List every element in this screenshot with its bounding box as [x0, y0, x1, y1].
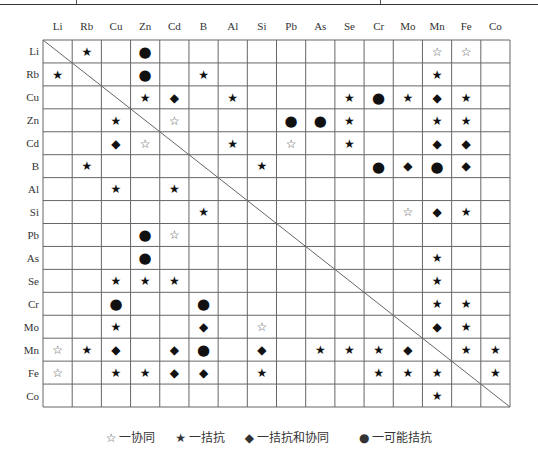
column-header-cu: Cu [110, 20, 123, 32]
row-header-cu: Cu [26, 91, 39, 103]
legend-item-antagonism: ★一拮抗 [175, 428, 225, 445]
row-header-mn: Mn [24, 344, 40, 356]
antagonism-filled-star-icon: ★ [169, 274, 180, 288]
column-header-si: Si [257, 20, 266, 32]
antagonism-filled-star-icon: ★ [344, 343, 355, 357]
possible-antagonism-circle-icon: ● [139, 249, 152, 267]
row-header-b: B [32, 160, 39, 172]
antagonism-filled-star-icon: ★ [198, 205, 209, 219]
possible-antagonism-circle-icon: ● [197, 341, 210, 359]
possible-antagonism-circle-icon: ● [372, 89, 385, 107]
antagonism-filled-star-icon: ★ [402, 91, 413, 105]
antagonism-filled-star-icon: ★ [111, 320, 122, 334]
column-header-fe: Fe [461, 20, 472, 32]
column-header-rb: Rb [80, 20, 93, 32]
antagonism-filled-star-icon: ★ [111, 182, 122, 196]
antagonism-and-synergy-diamond-icon: ◆ [199, 366, 209, 380]
synergy-open-star-icon: ☆ [286, 137, 297, 151]
possible-antagonism-circle-icon: ● [359, 431, 369, 445]
legend: ☆一协同 ★一拮抗 ◆一拮抗和协同 ●一可能拮抗 [0, 428, 538, 445]
column-header-zn: Zn [139, 20, 152, 32]
row-header-si: Si [30, 206, 39, 218]
column-header-pb: Pb [285, 20, 297, 32]
column-header-se: Se [344, 20, 355, 32]
antagonism-and-synergy-diamond-icon: ◆ [403, 343, 413, 357]
antagonism-and-synergy-diamond-icon: ◆ [245, 431, 254, 445]
antagonism-filled-star-icon: ★ [373, 343, 384, 357]
synergy-open-star-icon: ☆ [52, 366, 63, 380]
possible-antagonism-circle-icon: ● [372, 158, 385, 176]
antagonism-filled-star-icon: ★ [81, 343, 92, 357]
possible-antagonism-circle-icon: ● [285, 112, 298, 130]
antagonism-filled-star-icon: ★ [432, 274, 443, 288]
antagonism-filled-star-icon: ★ [461, 91, 472, 105]
row-header-zn: Zn [27, 114, 40, 126]
antagonism-and-synergy-diamond-icon: ◆ [432, 320, 442, 334]
possible-antagonism-circle-icon: ● [430, 158, 443, 176]
antagonism-and-synergy-diamond-icon: ◆ [170, 366, 180, 380]
row-header-co: Co [26, 390, 39, 402]
synergy-open-star-icon: ☆ [140, 137, 151, 151]
possible-antagonism-circle-icon: ● [109, 295, 122, 313]
element-interaction-matrix: LiRbCuZnCdBAlSiPbAsSeCrMoMnFeCoLiRbCuZnC… [0, 0, 538, 425]
antagonism-filled-star-icon: ★ [140, 91, 151, 105]
antagonism-filled-star-icon: ★ [169, 182, 180, 196]
antagonism-filled-star-icon: ★ [111, 366, 122, 380]
antagonism-and-synergy-diamond-icon: ◆ [462, 159, 472, 173]
antagonism-and-synergy-diamond-icon: ◆ [257, 343, 267, 357]
row-header-al: Al [28, 183, 39, 195]
antagonism-filled-star-icon: ★ [461, 114, 472, 128]
synergy-open-star-icon: ☆ [169, 228, 180, 242]
row-header-pb: Pb [27, 229, 39, 241]
row-header-mo: Mo [24, 321, 40, 333]
antagonism-and-synergy-diamond-icon: ◆ [170, 91, 180, 105]
synergy-open-star-icon: ☆ [106, 431, 117, 445]
legend-item-synergy: ☆一协同 [106, 428, 156, 445]
antagonism-filled-star-icon: ★ [461, 297, 472, 311]
antagonism-filled-star-icon: ★ [344, 114, 355, 128]
antagonism-filled-star-icon: ★ [257, 366, 268, 380]
synergy-open-star-icon: ☆ [461, 45, 472, 59]
antagonism-filled-star-icon: ★ [344, 137, 355, 151]
antagonism-filled-star-icon: ★ [461, 320, 472, 334]
row-header-li: Li [29, 45, 39, 57]
column-header-b: B [200, 20, 207, 32]
column-header-cd: Cd [168, 20, 181, 32]
possible-antagonism-circle-icon: ● [139, 66, 152, 84]
antagonism-and-synergy-diamond-icon: ◆ [432, 91, 442, 105]
antagonism-filled-star-icon: ★ [432, 366, 443, 380]
row-header-fe: Fe [28, 367, 39, 379]
antagonism-filled-star-icon: ★ [227, 137, 238, 151]
antagonism-filled-star-icon: ★ [227, 91, 238, 105]
antagonism-filled-star-icon: ★ [81, 159, 92, 173]
antagonism-filled-star-icon: ★ [461, 205, 472, 219]
antagonism-filled-star-icon: ★ [140, 366, 151, 380]
antagonism-filled-star-icon: ★ [461, 343, 472, 357]
antagonism-and-synergy-diamond-icon: ◆ [199, 320, 209, 334]
antagonism-filled-star-icon: ★ [402, 366, 413, 380]
row-header-se: Se [28, 275, 39, 287]
column-header-al: Al [227, 20, 238, 32]
antagonism-and-synergy-diamond-icon: ◆ [432, 205, 442, 219]
antagonism-and-synergy-diamond-icon: ◆ [170, 343, 180, 357]
column-header-mn: Mn [429, 20, 445, 32]
antagonism-and-synergy-diamond-icon: ◆ [403, 159, 413, 173]
legend-label: 一拮抗 [189, 431, 225, 445]
antagonism-filled-star-icon: ★ [81, 45, 92, 59]
legend-label: 一拮抗和协同 [257, 431, 329, 445]
row-header-rb: Rb [26, 68, 39, 80]
row-header-cd: Cd [26, 137, 39, 149]
legend-label: 一协同 [119, 431, 155, 445]
column-header-co: Co [489, 20, 502, 32]
legend-label: 一可能拮抗 [372, 431, 432, 445]
antagonism-filled-star-icon: ★ [111, 114, 122, 128]
column-header-as: As [314, 20, 326, 32]
antagonism-and-synergy-diamond-icon: ◆ [462, 137, 472, 151]
antagonism-filled-star-icon: ★ [432, 68, 443, 82]
antagonism-filled-star-icon: ★ [432, 297, 443, 311]
antagonism-filled-star-icon: ★ [373, 366, 384, 380]
legend-item-possible-antagonism: ●一可能拮抗 [359, 428, 432, 445]
antagonism-and-synergy-diamond-icon: ◆ [432, 137, 442, 151]
possible-antagonism-circle-icon: ● [314, 112, 327, 130]
antagonism-filled-star-icon: ★ [257, 159, 268, 173]
